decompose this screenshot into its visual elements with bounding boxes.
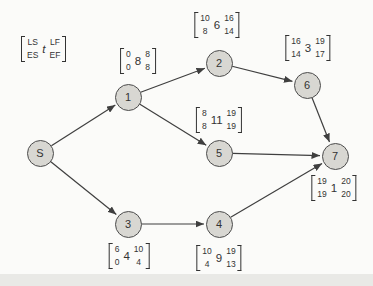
activity-label-node-3: 604104 (109, 243, 150, 269)
node-1: 1 (115, 84, 142, 111)
activity-label-node-1: 00888 (120, 48, 156, 74)
edge-2-6 (232, 66, 292, 81)
es-value: 19 (317, 190, 326, 199)
es-value: 4 (202, 260, 211, 269)
lf-ef-column: 88 (143, 48, 152, 74)
ls-value: 10 (202, 247, 211, 256)
duration-value: 1 (329, 182, 339, 194)
duration-value: 4 (121, 250, 131, 262)
footer-strip (0, 274, 373, 286)
lf-value: 19 (226, 247, 235, 256)
lf-value: 8 (145, 50, 150, 59)
ls-value: 6 (115, 245, 120, 254)
legend-es-label: ES (27, 51, 38, 60)
ef-value: 17 (315, 50, 324, 59)
duration-value: 9 (214, 252, 224, 264)
es-value: 8 (200, 27, 209, 36)
ls-es-column: 1919 (315, 175, 328, 201)
ls-es-column: 88 (200, 107, 209, 133)
right-bracket-icon (152, 48, 156, 74)
node-5: 5 (206, 140, 233, 167)
activity-label-node-6: 161431917 (285, 35, 330, 61)
ef-value: 19 (227, 122, 236, 131)
lf-ef-column: 2020 (339, 175, 352, 201)
lf-ef-column: 1614 (222, 12, 235, 38)
right-bracket-icon (353, 175, 357, 201)
legend-t-label: t (40, 43, 47, 55)
right-bracket-icon (238, 245, 242, 271)
right-bracket-icon (327, 35, 331, 61)
lf-value: 10 (134, 245, 143, 254)
activity-label-node-4: 10491913 (196, 245, 241, 271)
duration-value: 11 (209, 114, 225, 126)
ef-value: 13 (226, 260, 235, 269)
edge-4-7 (231, 164, 322, 218)
ls-es-column: 108 (198, 12, 211, 38)
ef-value: 4 (134, 258, 143, 267)
es-value: 14 (291, 50, 300, 59)
node-2: 2 (206, 50, 233, 77)
ls-es-column: 60 (113, 243, 122, 269)
node-3: 3 (115, 211, 142, 238)
lf-ef-column: 1919 (225, 107, 238, 133)
legend-ls-label: LS (27, 38, 38, 47)
ls-value: 0 (126, 50, 131, 59)
lf-value: 19 (227, 109, 236, 118)
edge-S-1 (51, 105, 115, 146)
right-bracket-icon (238, 107, 242, 133)
lf-value: 16 (224, 14, 233, 23)
lf-ef-column: 1917 (313, 35, 326, 61)
lf-ef-column: 1913 (224, 245, 237, 271)
ls-es-column: 1614 (289, 35, 302, 61)
ls-value: 19 (317, 177, 326, 186)
edge-S-3 (51, 161, 117, 214)
ef-value: 8 (145, 63, 150, 72)
node-7: 7 (322, 143, 349, 170)
duration-value: 3 (303, 42, 313, 54)
es-value: 8 (202, 122, 207, 131)
ef-value: 14 (224, 27, 233, 36)
es-value: 0 (126, 63, 131, 72)
node-4: 4 (206, 211, 233, 238)
ls-value: 16 (291, 37, 300, 46)
right-bracket-icon (236, 12, 240, 38)
node-S: S (27, 140, 54, 167)
ls-value: 8 (202, 109, 207, 118)
legend: LS ES t LF EF (21, 36, 66, 62)
edge-6-7 (312, 98, 330, 142)
es-value: 0 (115, 258, 120, 267)
legend-lf-label: LF (50, 38, 61, 47)
network-diagram: S1234567 0088810861614161431917881119191… (0, 0, 373, 286)
activity-label-node-7: 191912020 (311, 175, 356, 201)
lf-value: 20 (341, 177, 350, 186)
lf-value: 19 (315, 37, 324, 46)
edge-5-7 (232, 153, 320, 155)
legend-ef-label: EF (50, 51, 61, 60)
ef-value: 20 (341, 190, 350, 199)
ls-es-column: 104 (200, 245, 213, 271)
legend-right-bracket-icon (62, 36, 66, 62)
node-6: 6 (294, 72, 321, 99)
duration-value: 6 (212, 19, 222, 31)
activity-label-node-2: 10861614 (194, 12, 239, 38)
ls-es-column: 00 (124, 48, 133, 74)
duration-value: 8 (133, 55, 143, 67)
ls-value: 10 (200, 14, 209, 23)
lf-ef-column: 104 (132, 243, 145, 269)
activity-label-node-5: 88111919 (196, 107, 242, 133)
right-bracket-icon (145, 243, 149, 269)
